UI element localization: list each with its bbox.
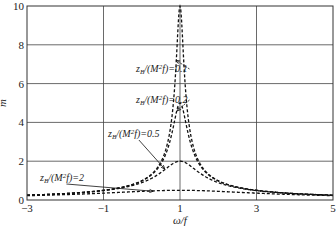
y-tick-label: 8 (19, 39, 25, 51)
annotation-label: zB/(M2f)=2 (39, 172, 84, 185)
y-tick-labels: 0246810 (13, 0, 25, 206)
curve-annotations: zB/(M2f)=0.1zB/(M2f)=0.2zB/(M2f)=0.5zB/(… (39, 60, 190, 192)
y-tick-label: 6 (19, 78, 25, 90)
annotation-label: zB/(M2f)=0.5 (107, 128, 160, 141)
x-tick-label: 3 (254, 202, 260, 214)
x-tick-label: 1 (177, 202, 183, 214)
x-tick-label: −1 (98, 202, 110, 214)
y-tick-label: 2 (19, 155, 25, 167)
resonance-chart: 0246810 −3−1135 zB/(M2f)=0.1zB/(M2f)=0.2… (0, 0, 336, 232)
x-tick-label: −3 (21, 202, 33, 214)
y-tick-label: 4 (19, 116, 25, 128)
annotation-arrow (139, 140, 165, 169)
x-tick-label: 5 (330, 202, 336, 214)
y-tick-label: 10 (13, 0, 25, 12)
y-axis-title: m (0, 99, 8, 107)
x-axis-title: ω/f (173, 214, 189, 226)
x-tick-labels: −3−1135 (21, 202, 336, 214)
